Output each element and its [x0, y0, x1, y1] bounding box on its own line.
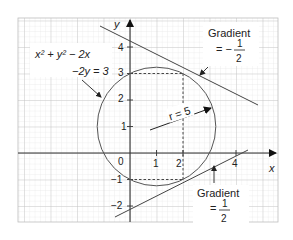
- lower-gradient-den: 2: [221, 213, 227, 224]
- upper-gradient-num: 1: [237, 38, 243, 49]
- lower-gradient-word: Gradient: [197, 187, 239, 199]
- upper-gradient-word: Gradient: [208, 27, 250, 39]
- lower-gradient-eq: =: [210, 202, 216, 214]
- y-tick-minus-2: −2: [111, 200, 123, 211]
- lower-gradient-num: 1: [222, 198, 228, 209]
- y-tick-3: 3: [118, 67, 124, 78]
- y-tick-minus-1: −1: [111, 174, 123, 185]
- coordinate-diagram: x y 1 2 4 0 4 3 2 1 −1 −2 r = 5 x² + y² …: [0, 0, 293, 240]
- x-tick-1: 1: [153, 158, 159, 169]
- lower-gradient-label: Gradient = 1 2: [193, 185, 249, 231]
- upper-gradient-label: Gradient = − 1 2: [203, 22, 259, 66]
- y-tick-4: 4: [118, 42, 124, 53]
- origin-label: 0: [118, 156, 124, 167]
- circle-equation-label: x² + y² − 2x −2y = 3: [30, 43, 112, 77]
- y-tick-2: 2: [118, 93, 124, 104]
- upper-gradient-den: 2: [236, 53, 242, 64]
- x-axis-label: x: [268, 162, 275, 174]
- circle-equation-line1: x² + y² − 2x: [34, 48, 91, 60]
- y-tick-1: 1: [121, 121, 127, 132]
- x-tick-4: 4: [232, 158, 238, 169]
- x-tick-2: 2: [176, 158, 182, 169]
- circle-equation-line2: −2y = 3: [72, 65, 110, 77]
- upper-gradient-eq: = −: [216, 43, 232, 55]
